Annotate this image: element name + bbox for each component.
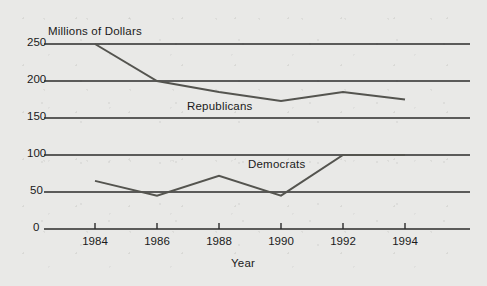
gridlines	[44, 44, 470, 192]
x-axis-ticks	[95, 223, 405, 229]
chart-plot-area: Millions of Dollars Year 250 200 150 100…	[17, 8, 470, 271]
series-line-republicans	[95, 44, 405, 101]
chart-figure: Millions of Dollars Year 250 200 150 100…	[0, 0, 487, 286]
plot-svg	[17, 8, 470, 271]
series-line-democrats	[95, 155, 405, 196]
series-lines	[95, 44, 405, 196]
